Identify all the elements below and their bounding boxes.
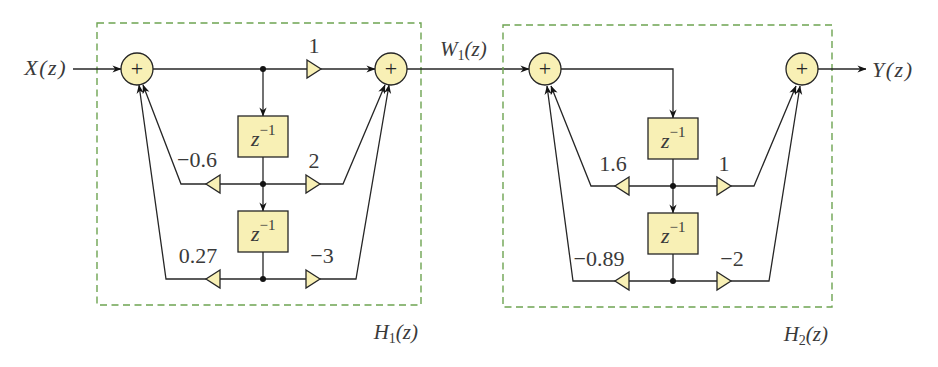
h1-label-sub: 1 bbox=[389, 331, 396, 346]
h1-fb1-gain-label: −0.6 bbox=[177, 147, 217, 172]
h2-ff1-gain-triangle bbox=[717, 177, 731, 195]
output-signal-arg: (z) bbox=[886, 57, 914, 82]
h2-delay-2: z−1 bbox=[648, 213, 698, 254]
h2-fb2-gain-triangle bbox=[615, 272, 629, 290]
h2-label-sub: 2 bbox=[799, 333, 806, 348]
h1-output-summer: + bbox=[375, 53, 407, 85]
h1-fb1-gain-triangle bbox=[206, 175, 220, 193]
h1-label-arg: (z) bbox=[396, 320, 418, 344]
h2-output-summer: + bbox=[786, 53, 818, 85]
h1-fb2-gain-label: 0.27 bbox=[179, 243, 218, 268]
plus-icon: + bbox=[131, 56, 143, 81]
delay-base: z bbox=[250, 126, 260, 151]
h1-fb2-gain-triangle bbox=[206, 270, 220, 288]
w1-arg: (z) bbox=[465, 37, 487, 61]
input-signal-arg: (z) bbox=[39, 55, 67, 80]
delay-exp: −1 bbox=[670, 219, 686, 235]
h2-to-delay1-arrow bbox=[561, 69, 673, 118]
h1-ff1-gain-triangle bbox=[306, 175, 320, 193]
delay-exp: −1 bbox=[670, 124, 686, 140]
plus-icon: + bbox=[796, 56, 808, 81]
diagram-svg: H1(z) X(z) + + 1 bbox=[0, 0, 938, 367]
delay-base: z bbox=[660, 128, 670, 153]
input-signal-label: X(z) bbox=[23, 55, 67, 80]
h2-ff1-gain-label: 1 bbox=[719, 151, 730, 176]
h1-input-summer: + bbox=[121, 53, 153, 85]
h2-delay-1: z−1 bbox=[648, 118, 698, 159]
h1-junction-bottom bbox=[260, 276, 266, 282]
h2-fb1-gain-label: 1.6 bbox=[599, 151, 627, 176]
h2-label: H2(z) bbox=[783, 322, 828, 348]
input-signal-base: X bbox=[23, 55, 39, 80]
h2-fb2-gain-label: −0.89 bbox=[574, 246, 625, 271]
h1-direct-gain-label: 1 bbox=[309, 33, 320, 58]
output-signal-base: Y bbox=[872, 57, 887, 82]
h1-delay-2: z−1 bbox=[238, 211, 288, 252]
h2-ff2-gain-triangle bbox=[717, 272, 731, 290]
delay-exp: −1 bbox=[260, 122, 276, 138]
h2-ff2-gain-label: −2 bbox=[720, 246, 743, 271]
delay-base: z bbox=[250, 221, 260, 246]
h1-junction-mid bbox=[260, 181, 266, 187]
h2-junction-bottom bbox=[670, 278, 676, 284]
h1-junction-top bbox=[260, 66, 266, 72]
h1-ff2-gain-label: −3 bbox=[310, 243, 333, 268]
w1-sub: 1 bbox=[458, 48, 465, 63]
h1-ff1-gain-label: 2 bbox=[309, 148, 320, 173]
h1-ff2-gain-triangle bbox=[306, 270, 320, 288]
h2-junction-mid bbox=[670, 183, 676, 189]
delay-base: z bbox=[660, 223, 670, 248]
plus-icon: + bbox=[385, 56, 397, 81]
h2-fb1-gain-triangle bbox=[615, 177, 629, 195]
plus-icon: + bbox=[539, 56, 551, 81]
h1-direct-gain-triangle bbox=[307, 60, 321, 78]
delay-exp: −1 bbox=[260, 217, 276, 233]
block-diagram: H1(z) X(z) + + 1 bbox=[0, 0, 938, 367]
h1-delay-1: z−1 bbox=[238, 116, 288, 157]
h2-label-arg: (z) bbox=[806, 322, 828, 346]
h2-input-summer: + bbox=[529, 53, 561, 85]
output-signal-label: Y(z) bbox=[872, 57, 913, 82]
intermediate-signal-label: W1(z) bbox=[440, 37, 487, 63]
h1-label: H1(z) bbox=[373, 320, 418, 346]
